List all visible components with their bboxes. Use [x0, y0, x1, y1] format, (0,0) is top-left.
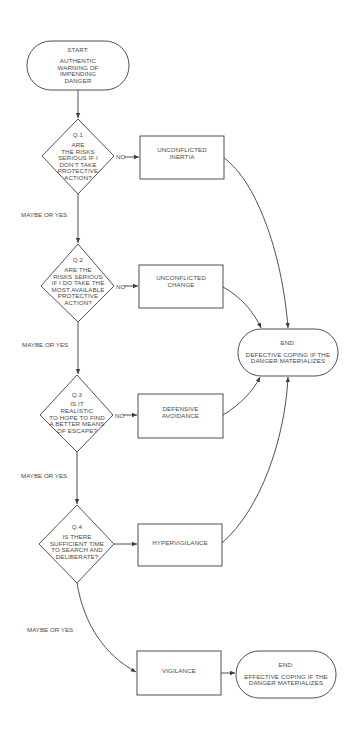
end-effective-coping: END: EFFECTIVE COPING IF THE DANGER MATE…: [236, 651, 336, 698]
yes-label: MAYBE OR YES: [27, 626, 73, 633]
connector-q4-yes: [77, 583, 136, 672]
q1-decision: Q.1 ARE THE RISKS SERIOUS IF I DON'T TAK…: [42, 124, 114, 190]
end-text-line: DANGER MATERIALIZES: [249, 680, 323, 687]
q2-no-label: NO: [116, 283, 125, 290]
end-defective-coping: END: DEFECTIVE COPING IF THE DANGER MATE…: [238, 329, 338, 376]
connector-defensive-end: [223, 377, 260, 415]
end-text-line: DANGER MATERIALIZES: [251, 358, 325, 365]
q4-text-line: DELIBERATE?: [56, 554, 99, 561]
q3-no-label: NO: [115, 412, 124, 419]
outcome-text-line: CHANGE: [167, 282, 194, 289]
q3-text-line: OF ESCAPE?: [57, 428, 97, 435]
yes-label: MAYBE OR YES: [22, 341, 68, 348]
outcome-unconflicted-inertia: UNCONFLICTED INERTIA: [140, 136, 224, 172]
outcome-text-line: AVOIDANCE: [162, 413, 199, 420]
q1-label: Q.1: [73, 132, 83, 139]
q3-label: Q.3: [72, 392, 82, 399]
outcome-defensive-avoidance: DEFENSIVE AVOIDANCE: [138, 394, 223, 432]
connector-change-end: [223, 287, 261, 328]
start-terminator: START: AUTHENTIC WARNING OF IMPENDING DA…: [27, 41, 129, 90]
outcome-text-line: VIGILANCE: [162, 668, 196, 675]
start-heading: START:: [67, 47, 88, 54]
outcome-vigilance: VIGILANCE: [137, 651, 221, 691]
q4-decision: Q.4 IS THERE SUFFICIENT TIME TO SEARCH A…: [39, 512, 115, 572]
q3-decision: Q.3 IS IT REALISTIC TO HOPE TO FIND A BE…: [39, 380, 115, 446]
outcome-text-line: HYPERVIGILANCE: [152, 540, 208, 547]
yes-label: MAYBE OR YES: [21, 472, 67, 479]
connector-hypervigilance-end: [222, 377, 288, 543]
yes-label: MAYBE OR YES: [21, 211, 67, 218]
q1-no-label: NO: [116, 153, 125, 160]
outcome-text-line: INERTIA: [170, 154, 195, 161]
start-text-line: DANGER: [64, 78, 91, 85]
connector-inertia-end: [224, 158, 288, 328]
q2-decision: Q.2 ARE THE RISKS SERIOUS IF I DO TAKE T…: [40, 249, 116, 315]
q1-text-line: ACTION?: [64, 175, 92, 182]
q2-text-line: ACTION?: [64, 300, 92, 307]
outcome-unconflicted-change: UNCONFLICTED CHANGE: [139, 265, 223, 299]
end-heading: END:: [278, 662, 293, 669]
q2-label: Q.2: [73, 257, 83, 264]
end-heading: END:: [280, 340, 295, 347]
outcome-hypervigilance: HYPERVIGILANCE: [138, 524, 222, 562]
q4-label: Q.4: [72, 524, 82, 531]
